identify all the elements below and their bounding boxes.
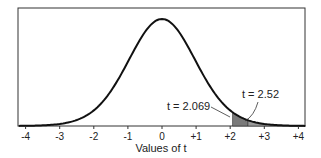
x-tick-label: +1 — [190, 131, 202, 142]
x-tick-label: +4 — [293, 131, 305, 142]
density-curve — [19, 19, 305, 126]
x-tick-label: +2 — [224, 131, 236, 142]
t-distribution-chart: -4-3-2-10+1+2+3+4 t = 2.069 t = 2.52 Val… — [0, 0, 321, 158]
x-tick-label: +3 — [259, 131, 271, 142]
annotation-right: t = 2.52 — [242, 88, 279, 100]
annotation-leader-right — [245, 102, 258, 121]
x-tick-label: -3 — [55, 131, 64, 142]
x-tick-label: -2 — [89, 131, 98, 142]
x-tick-label: 0 — [159, 131, 165, 142]
plot-frame — [18, 8, 305, 126]
x-tick-label: -1 — [123, 131, 132, 142]
annotation-left: t = 2.069 — [167, 100, 210, 112]
x-axis-ticks: -4-3-2-10+1+2+3+4 — [21, 126, 304, 142]
x-tick-label: -4 — [21, 131, 30, 142]
x-axis-title: Values of t — [135, 142, 186, 154]
